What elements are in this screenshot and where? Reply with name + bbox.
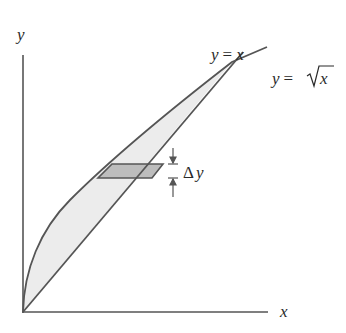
region-diagram: y x y=x y= x Δy xyxy=(0,0,346,333)
label-y-equals-x: y=x xyxy=(209,45,244,64)
x-axis-label: x xyxy=(279,302,288,321)
svg-text:y=: y= xyxy=(270,69,293,88)
delta-y-label: Δy xyxy=(183,163,204,182)
line-y-equals-x xyxy=(23,52,243,312)
svg-text:x: x xyxy=(319,69,328,88)
curve-y-equals-sqrt-x xyxy=(23,47,267,312)
y-axis-label: y xyxy=(15,25,25,44)
delta-y-marker xyxy=(168,148,178,197)
label-y-equals-sqrt-x: y= x xyxy=(270,66,334,88)
